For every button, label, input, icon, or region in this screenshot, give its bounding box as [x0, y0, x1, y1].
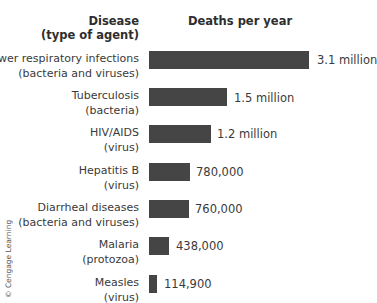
bar	[149, 275, 157, 293]
disease-agent: (virus)	[90, 140, 139, 155]
value-label: 1.5 million	[234, 89, 294, 107]
row-label: Lower respiratory infections (bacteria a…	[0, 51, 139, 81]
deaths-column-header: Deaths per year	[188, 14, 292, 28]
disease-name: Malaria	[82, 237, 139, 252]
disease-name: Measles	[95, 275, 139, 290]
copyright-credit: © Cengage Learning	[4, 220, 13, 298]
value-label: 438,000	[176, 237, 224, 255]
disease-name: Hepatitis B	[79, 163, 139, 178]
row-label: HIV/AIDS (virus)	[90, 125, 139, 155]
value-label: 760,000	[195, 200, 243, 218]
chart-row-tuberculosis: Tuberculosis (bacteria) 1.5 million	[0, 88, 371, 124]
disease-header-line1: Disease	[41, 14, 139, 28]
row-label: Measles (virus)	[95, 275, 139, 303]
value-label: 780,000	[196, 163, 244, 181]
disease-header-line2: (type of agent)	[41, 28, 139, 42]
chart-row-hepatitis-b: Hepatitis B (virus) 780,000	[0, 163, 371, 199]
chart-row-lower-respiratory: Lower respiratory infections (bacteria a…	[0, 51, 371, 87]
row-label: Diarrheal diseases (bacteria and viruses…	[18, 200, 139, 230]
row-label: Tuberculosis (bacteria)	[72, 88, 139, 118]
value-label: 3.1 million	[317, 51, 377, 69]
disease-agent: (virus)	[95, 290, 139, 303]
chart-row-measles: Measles (virus) 114,900	[0, 275, 371, 303]
disease-agent: (protozoa)	[82, 252, 139, 267]
bar	[149, 237, 169, 255]
value-label: 1.2 million	[217, 125, 277, 143]
chart-row-diarrheal: Diarrheal diseases (bacteria and viruses…	[0, 200, 371, 236]
bar	[149, 163, 190, 181]
row-label: Hepatitis B (virus)	[79, 163, 139, 193]
value-label: 114,900	[164, 275, 212, 293]
bar	[149, 200, 189, 218]
chart-row-hiv-aids: HIV/AIDS (virus) 1.2 million	[0, 125, 371, 161]
disease-agent: (bacteria)	[72, 103, 139, 118]
disease-name: Tuberculosis	[72, 88, 139, 103]
row-label: Malaria (protozoa)	[82, 237, 139, 267]
disease-agent: (bacteria and viruses)	[18, 215, 139, 230]
chart-row-malaria: Malaria (protozoa) 438,000	[0, 237, 371, 273]
disease-name: Diarrheal diseases	[18, 200, 139, 215]
disease-agent: (virus)	[79, 178, 139, 193]
disease-agent: (bacteria and viruses)	[0, 66, 139, 81]
disease-name: Lower respiratory infections	[0, 51, 139, 66]
bar	[149, 125, 211, 143]
bar	[149, 51, 309, 69]
disease-column-header: Disease (type of agent)	[41, 14, 139, 42]
bar	[149, 88, 227, 106]
disease-name: HIV/AIDS	[90, 125, 139, 140]
